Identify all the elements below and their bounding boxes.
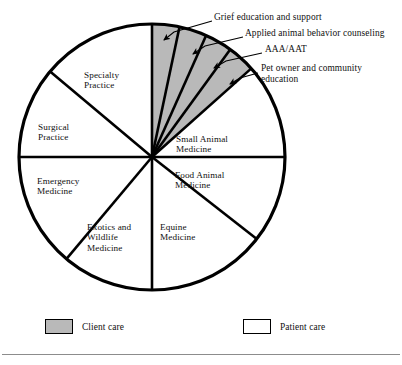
legend-swatch-client-care	[45, 319, 73, 334]
legend-item-patient-care: Patient care	[243, 319, 325, 334]
legend-label-client-care: Client care	[82, 322, 124, 332]
legend-swatch-patient-care	[243, 319, 271, 334]
bottom-divider-rule	[2, 354, 400, 355]
slice-label-surgical-practice: Surgical Practice	[38, 122, 69, 143]
legend-label-patient-care: Patient care	[280, 322, 325, 332]
pie-chart-figure: Specialty Practice Surgical Practice Eme…	[0, 0, 402, 365]
callout-aaa-aat: AAA/AAT	[265, 44, 307, 55]
callout-applied-behavior-counseling: Applied animal behavior counseling	[245, 28, 385, 39]
slice-label-equine-medicine: Equine Medicine	[160, 222, 196, 243]
legend-item-client-care: Client care	[45, 319, 124, 334]
callout-pet-owner-education: Pet owner and community education	[261, 63, 362, 84]
callout-grief-education: Grief education and support	[214, 12, 322, 23]
slice-label-food-animal-medicine: Food Animal Medicine	[175, 170, 224, 191]
slice-label-emergency-medicine: Emergency Medicine	[37, 176, 80, 197]
slice-label-specialty-practice: Specialty Practice	[84, 70, 119, 91]
slice-label-exotics-wildlife-medicine: Exotics and Wildlife Medicine	[87, 222, 131, 253]
slice-label-small-animal-medicine: Small Animal Medicine	[176, 134, 228, 155]
